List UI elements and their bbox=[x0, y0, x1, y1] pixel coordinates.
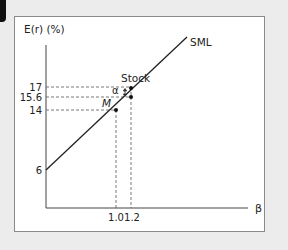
alpha-label: α bbox=[112, 85, 119, 96]
alpha-arrow-icon bbox=[123, 89, 126, 97]
stock-label: Stock bbox=[121, 72, 151, 84]
y-tick-6: 6 bbox=[36, 165, 42, 176]
x-tick-1-0: 1.0 bbox=[108, 212, 124, 223]
y-axis-label: E(r) (%) bbox=[24, 23, 65, 35]
market-label: M bbox=[102, 97, 111, 109]
sml-chart: E(r) (%) β SML Stock M α 17 15.6 14 6 1.… bbox=[0, 0, 288, 250]
stock-sml-point bbox=[129, 95, 133, 99]
market-point bbox=[114, 108, 118, 112]
sml-label: SML bbox=[190, 36, 212, 48]
y-tick-14: 14 bbox=[29, 105, 42, 116]
sml-line bbox=[46, 37, 187, 170]
y-tick-15-6: 15.6 bbox=[20, 92, 42, 103]
x-axis-label: β bbox=[255, 202, 262, 215]
x-tick-1-2: 1.2 bbox=[124, 212, 140, 223]
guide-lines bbox=[46, 87, 131, 208]
stock-point bbox=[129, 86, 133, 90]
